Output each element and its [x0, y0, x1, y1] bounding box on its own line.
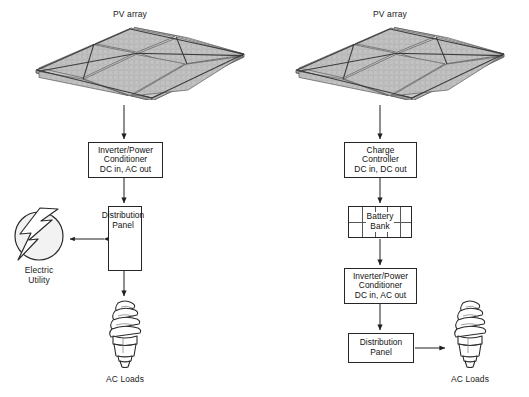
- inverter-label: Inverter/Power Conditioner DC in, AC out: [98, 146, 153, 175]
- charge-controller-label: Charge Controller DC in, DC out: [354, 146, 406, 175]
- distribution-panel-label: Distribution Panel: [102, 211, 145, 230]
- battery-bank-box[interactable]: Battery Bank: [348, 206, 412, 238]
- ac-loads-label: AC Loads: [440, 374, 500, 384]
- electric-utility-text: Electric Utility: [25, 265, 54, 285]
- ac-loads-label: AC Loads: [95, 374, 155, 384]
- inverter-power-conditioner-box[interactable]: Inverter/Power Conditioner DC in, AC out: [88, 142, 163, 178]
- compact-fluorescent-bulb-icon: [448, 297, 492, 369]
- distribution-panel-label: Distribution Panel: [360, 338, 403, 357]
- inverter-label: Inverter/Power Conditioner DC in, AC out: [353, 272, 408, 301]
- diagram-canvas: PV array: [0, 0, 529, 397]
- distribution-panel-box[interactable]: Distribution Panel: [108, 206, 142, 271]
- standalone-system-diagram: PV array: [265, 0, 529, 397]
- charge-controller-box[interactable]: Charge Controller DC in, DC out: [344, 142, 417, 178]
- grid-tied-system-diagram: PV array: [0, 0, 265, 397]
- compact-fluorescent-bulb-icon: [103, 297, 147, 369]
- inverter-power-conditioner-box[interactable]: Inverter/Power Conditioner DC in, AC out: [344, 268, 417, 304]
- battery-bank-label: Battery Bank: [366, 212, 395, 231]
- lightning-bolt-circle-icon: [8, 203, 70, 265]
- electric-utility-label: Electric Utility: [8, 265, 70, 285]
- distribution-panel-box[interactable]: Distribution Panel: [348, 333, 414, 363]
